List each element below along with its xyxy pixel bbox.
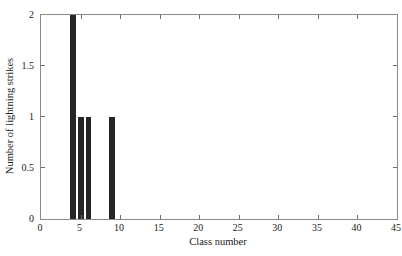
x-tick-label: 10 [114, 222, 124, 233]
y-tick [41, 167, 45, 168]
x-tick [357, 215, 358, 219]
bar [78, 117, 84, 219]
x-tick-label: 15 [154, 222, 164, 233]
bar [109, 117, 115, 219]
x-tick [239, 215, 240, 219]
x-tick-top [81, 15, 82, 19]
x-tick-label: 35 [312, 222, 322, 233]
x-tick [160, 215, 161, 219]
y-tick [41, 116, 45, 117]
x-tick [278, 215, 279, 219]
x-axis-title: Class number [40, 236, 396, 247]
y-tick-right [393, 116, 397, 117]
x-tick-top [239, 15, 240, 19]
x-tick-label: 30 [272, 222, 282, 233]
x-tick-label: 0 [38, 222, 43, 233]
y-tick-right [393, 167, 397, 168]
x-tick-top [318, 15, 319, 19]
x-tick-label: 20 [193, 222, 203, 233]
x-tick [318, 215, 319, 219]
y-tick-label: 2 [0, 9, 34, 20]
x-tick [81, 215, 82, 219]
x-tick-label: 5 [77, 222, 82, 233]
x-tick-top [199, 15, 200, 19]
y-tick-label: 0 [0, 213, 34, 224]
x-tick [120, 215, 121, 219]
y-tick [41, 65, 45, 66]
x-tick-top [160, 15, 161, 19]
plot-area [40, 14, 398, 220]
bar [70, 15, 76, 219]
bars-layer [41, 15, 397, 219]
bar [86, 117, 92, 219]
x-tick-label: 25 [233, 222, 243, 233]
y-axis-title: Number of lightning strikes [4, 58, 15, 174]
x-tick-top [120, 15, 121, 19]
lightning-strikes-bar-chart: 051015202530354045 00.511.52 Class numbe… [0, 0, 402, 256]
x-tick-label: 45 [391, 222, 401, 233]
x-tick [199, 215, 200, 219]
x-tick-label: 40 [351, 222, 361, 233]
x-tick-top [278, 15, 279, 19]
x-tick-top [357, 15, 358, 19]
y-tick-right [393, 65, 397, 66]
